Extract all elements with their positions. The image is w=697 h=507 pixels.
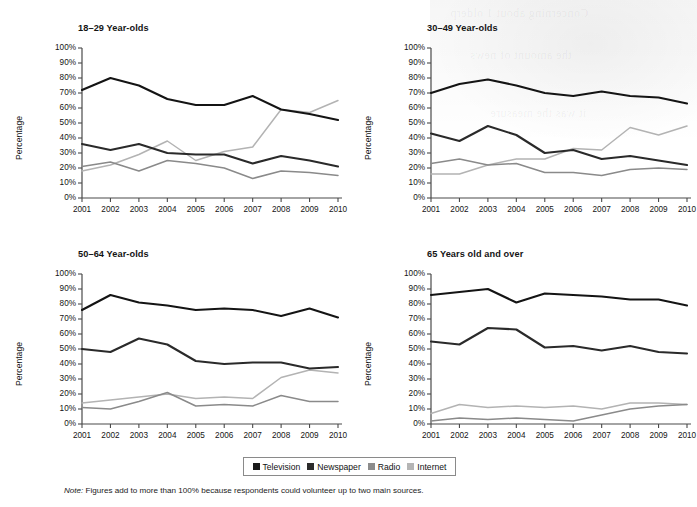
x-tick-label: 2003	[472, 431, 504, 440]
y-tick-label: 90%	[36, 284, 76, 293]
panel-18-29: 18–29 Year-olds Percentage 100%90%80%70%…	[0, 0, 348, 230]
legend-label: Radio	[378, 462, 400, 472]
y-tick-label: 100%	[385, 43, 425, 52]
y-tick-label: 30%	[36, 374, 76, 383]
legend-item-radio[interactable]: Radio	[368, 462, 400, 472]
x-tick-label: 2007	[237, 431, 269, 440]
legend-item-internet[interactable]: Internet	[407, 462, 446, 472]
x-tick-label: 2002	[94, 431, 126, 440]
series-line-internet	[82, 370, 338, 403]
x-tick-label: 2006	[208, 205, 240, 214]
legend-swatch-icon	[253, 463, 260, 470]
x-tick-label: 2008	[265, 205, 297, 214]
y-tick-label: 30%	[36, 148, 76, 157]
legend-label: Television	[263, 462, 301, 472]
note-label: Note:	[64, 486, 83, 495]
y-axis-ticks	[427, 48, 431, 198]
x-tick-label: 2009	[643, 431, 675, 440]
y-tick-label: 30%	[385, 148, 425, 157]
series-line-internet	[431, 403, 687, 414]
x-tick-label: 2010	[671, 205, 697, 214]
legend-swatch-icon	[307, 463, 314, 470]
y-tick-label: 30%	[385, 374, 425, 383]
x-tick-label: 2009	[294, 431, 326, 440]
x-tick-label: 2009	[643, 205, 675, 214]
y-tick-label: 0%	[385, 419, 425, 428]
x-tick-label: 2005	[180, 431, 212, 440]
y-tick-label: 80%	[385, 73, 425, 82]
y-tick-label: 70%	[385, 314, 425, 323]
y-tick-label: 0%	[36, 419, 76, 428]
x-tick-label: 2005	[180, 205, 212, 214]
x-axis-ticks	[431, 424, 687, 428]
y-tick-label: 20%	[36, 389, 76, 398]
x-tick-label: 2010	[671, 431, 697, 440]
y-tick-label: 60%	[385, 329, 425, 338]
legend-item-television[interactable]: Television	[253, 462, 301, 472]
x-tick-label: 2002	[443, 431, 475, 440]
x-tick-label: 2004	[500, 205, 532, 214]
y-tick-label: 0%	[385, 193, 425, 202]
series-line-newspaper	[82, 144, 338, 167]
y-tick-label: 100%	[36, 43, 76, 52]
panel-65-over: 65 Years old and over Percentage 100%90%…	[349, 228, 697, 453]
series-line-radio	[82, 161, 338, 179]
y-tick-label: 40%	[36, 359, 76, 368]
y-tick-label: 60%	[36, 329, 76, 338]
series-line-television	[431, 80, 687, 104]
x-tick-label: 2004	[151, 431, 183, 440]
legend-swatch-icon	[368, 463, 375, 470]
x-tick-label: 2002	[94, 205, 126, 214]
x-tick-label: 2001	[66, 431, 98, 440]
panel-50-64: 50–64 Year-olds Percentage 100%90%80%70%…	[0, 228, 348, 453]
y-tick-label: 60%	[385, 103, 425, 112]
y-tick-label: 100%	[385, 269, 425, 278]
x-tick-label: 2008	[614, 205, 646, 214]
x-tick-label: 2003	[472, 205, 504, 214]
y-tick-label: 40%	[385, 359, 425, 368]
y-tick-label: 10%	[385, 404, 425, 413]
x-tick-label: 2009	[294, 205, 326, 214]
legend-swatch-icon	[407, 463, 414, 470]
y-tick-label: 90%	[36, 58, 76, 67]
y-axis-ticks	[427, 274, 431, 424]
x-tick-label: 2003	[123, 431, 155, 440]
x-tick-label: 2006	[557, 431, 589, 440]
y-tick-label: 50%	[385, 344, 425, 353]
y-tick-label: 90%	[385, 58, 425, 67]
y-tick-label: 80%	[36, 73, 76, 82]
x-axis-ticks	[82, 424, 338, 428]
y-tick-label: 10%	[385, 178, 425, 187]
y-tick-label: 70%	[36, 88, 76, 97]
figure-note: Note: Figures add to more than 100% beca…	[64, 486, 424, 495]
y-tick-label: 90%	[385, 284, 425, 293]
series-line-television	[82, 78, 338, 120]
series-line-radio	[431, 159, 687, 176]
x-axis-ticks	[431, 198, 687, 202]
x-tick-label: 2005	[529, 431, 561, 440]
axes	[82, 48, 342, 198]
x-tick-label: 2004	[500, 431, 532, 440]
series-line-newspaper	[431, 328, 687, 354]
x-tick-label: 2001	[415, 205, 447, 214]
series-line-television	[431, 289, 687, 306]
y-tick-label: 0%	[36, 193, 76, 202]
y-tick-label: 70%	[36, 314, 76, 323]
y-tick-label: 50%	[385, 118, 425, 127]
y-tick-label: 70%	[385, 88, 425, 97]
news-sources-by-age-figure: Concerning about 1 olderpthe amount of n…	[0, 0, 697, 507]
legend-item-newspaper[interactable]: Newspaper	[307, 462, 360, 472]
series-line-newspaper	[82, 339, 338, 369]
x-tick-label: 2007	[586, 431, 618, 440]
panel-30-49: 30–49 Year-olds Percentage 100%90%80%70%…	[349, 0, 697, 230]
x-tick-label: 2006	[208, 431, 240, 440]
x-tick-label: 2003	[123, 205, 155, 214]
x-tick-label: 2008	[614, 431, 646, 440]
x-tick-label: 2001	[415, 431, 447, 440]
x-tick-label: 2007	[237, 205, 269, 214]
y-tick-label: 10%	[36, 178, 76, 187]
y-tick-label: 50%	[36, 118, 76, 127]
y-tick-label: 10%	[36, 404, 76, 413]
series-line-internet	[82, 101, 338, 172]
series-line-television	[82, 295, 338, 318]
